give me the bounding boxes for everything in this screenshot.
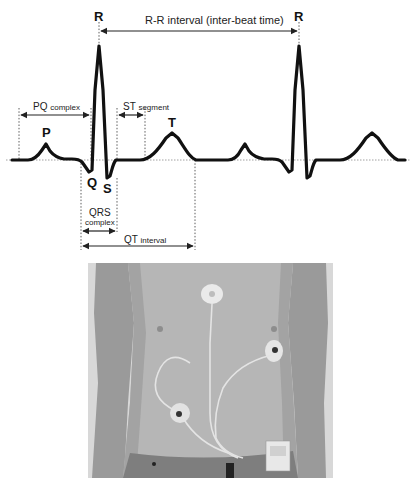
qrs-complex-label: QRS complex bbox=[85, 208, 115, 228]
torso-illustration bbox=[88, 263, 333, 478]
qt-interval-label: QT interval bbox=[124, 234, 166, 245]
q-wave-label: Q bbox=[87, 175, 97, 190]
holter-recorder bbox=[266, 441, 290, 471]
electrode-upper-sternum bbox=[201, 284, 223, 304]
interval-arrows bbox=[21, 31, 297, 246]
qt-label-main: QT bbox=[124, 234, 138, 245]
pq-complex-label: PQ complex bbox=[33, 101, 80, 112]
pq-label-sub: complex bbox=[50, 103, 80, 112]
electrode-right-abdomen bbox=[170, 403, 190, 423]
r-wave-label-1: R bbox=[94, 9, 103, 24]
st-label-main: ST bbox=[123, 101, 136, 112]
guide-lines bbox=[19, 22, 299, 250]
st-label-sub: segment bbox=[138, 103, 169, 112]
qt-label-sub: interval bbox=[141, 236, 167, 245]
rr-interval-label: R-R interval (inter-beat time) bbox=[145, 14, 284, 26]
ecg-waveform bbox=[12, 46, 405, 178]
st-segment-label: ST segment bbox=[123, 101, 169, 112]
r-wave-label-2: R bbox=[294, 9, 303, 24]
ecg-trace-svg bbox=[0, 0, 411, 255]
pq-label-main: PQ bbox=[33, 101, 47, 112]
s-wave-label: S bbox=[103, 181, 112, 196]
p-wave-label: P bbox=[42, 125, 51, 140]
qrs-label-main: QRS bbox=[85, 208, 115, 218]
holter-torso-photo bbox=[88, 263, 333, 478]
t-wave-label: T bbox=[168, 115, 176, 130]
electrode-left-chest bbox=[265, 340, 283, 362]
qrs-label-sub: complex bbox=[85, 218, 115, 228]
